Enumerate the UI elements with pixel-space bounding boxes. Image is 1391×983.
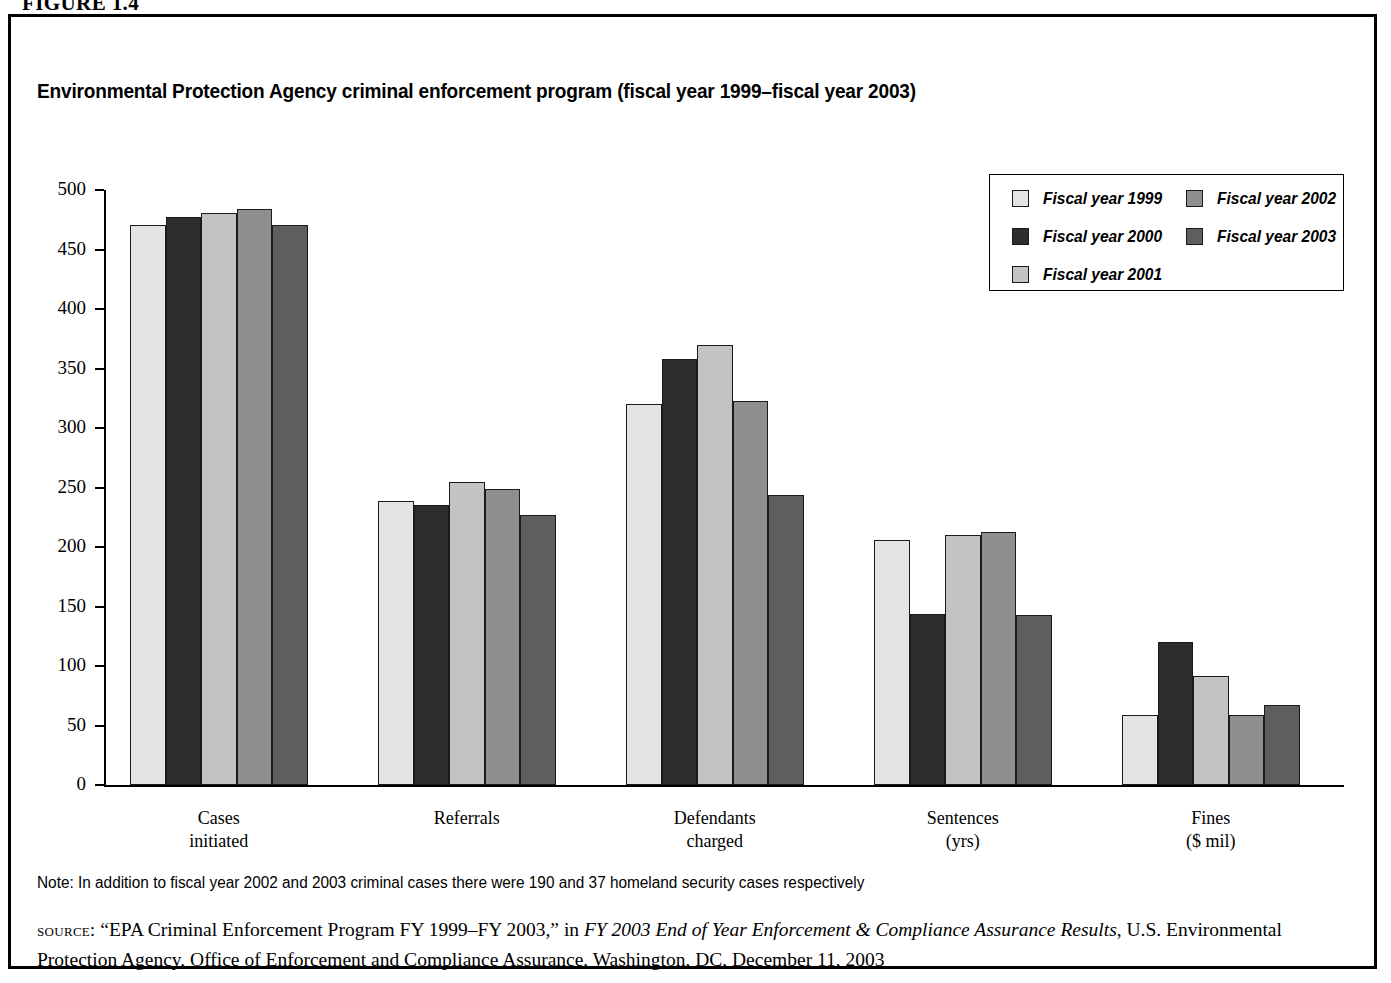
legend-item: Fiscal year 2003 [1186,227,1344,246]
y-axis-line [104,190,106,786]
y-axis-tick [95,189,104,191]
legend-item: Fiscal year 2002 [1186,189,1344,208]
y-axis-tick-label: 450 [58,238,87,260]
bar [697,345,733,785]
bar [768,495,804,785]
bar [166,217,202,785]
bar [626,404,662,785]
bar [520,515,556,785]
bar [1122,715,1158,785]
y-axis-tick-label: 150 [58,595,87,617]
bar [201,213,237,785]
source-label: source: [37,920,95,940]
y-axis-tick [95,546,104,548]
bar [1229,715,1265,785]
y-axis-tick [95,784,104,786]
bar [130,225,166,785]
bar [733,401,769,785]
y-axis-tick-label: 350 [58,357,87,379]
legend-swatch-fy2001 [1012,266,1029,283]
y-axis-tick [95,249,104,251]
y-axis-tick-label: 50 [67,714,86,736]
bar [1016,615,1052,785]
bar [485,489,521,785]
chart-source: source: “EPA Criminal Enforcement Progra… [37,915,1337,974]
bar [874,540,910,785]
y-axis-tick [95,308,104,310]
y-axis-tick [95,665,104,667]
y-axis-tick-label: 100 [58,654,87,676]
y-axis-tick-label: 250 [58,476,87,498]
chart-note: Note: In addition to fiscal year 2002 an… [37,874,864,892]
bar [662,359,698,785]
y-axis-tick [95,427,104,429]
bar [378,501,414,785]
bar [414,505,450,785]
source-text-part1: “EPA Criminal Enforcement Program FY 199… [95,919,584,940]
y-axis-tick [95,368,104,370]
bar [449,482,485,785]
x-axis-category-label: Defendants charged [625,807,805,853]
bar [945,535,981,785]
legend-item-label: Fiscal year 2000 [1043,227,1162,246]
y-axis-tick-label: 200 [58,535,87,557]
y-axis-tick [95,487,104,489]
bar [1193,676,1229,785]
legend-swatch-fy2003 [1186,228,1203,245]
x-axis-category-label: Sentences (yrs) [873,807,1053,853]
x-axis-category-label: Referrals [377,807,557,830]
legend-item: Fiscal year 2001 [1012,265,1170,284]
legend-item: Fiscal year 1999 [1012,189,1170,208]
x-axis-category-label: Cases initiated [129,807,309,853]
legend-swatch-fy2002 [1186,190,1203,207]
x-axis-category-label: Fines ($ mil) [1121,807,1301,853]
chart-title: Environmental Protection Agency criminal… [37,79,916,103]
legend-item: Fiscal year 2000 [1012,227,1170,246]
y-axis-tick [95,606,104,608]
bar [910,614,946,785]
x-axis-line [104,785,1344,787]
legend-item-label: Fiscal year 2003 [1217,227,1336,246]
bar [1158,642,1194,785]
legend-item-label: Fiscal year 1999 [1043,189,1162,208]
y-axis-tick-label: 400 [58,297,87,319]
legend-item-label: Fiscal year 2002 [1217,189,1336,208]
y-axis-tick-label: 0 [77,773,87,795]
figure-frame: Environmental Protection Agency criminal… [8,14,1377,969]
y-axis-tick-label: 500 [58,178,87,200]
bar [272,225,308,785]
legend-item-label: Fiscal year 2001 [1043,265,1162,284]
legend-swatch-fy1999 [1012,190,1029,207]
bar [981,532,1017,785]
y-axis-tick [95,725,104,727]
y-axis-labels: 050100150200250300350400450500 [16,190,86,785]
bar [1264,705,1300,785]
bar [237,209,273,785]
chart-legend: Fiscal year 1999Fiscal year 2000Fiscal y… [989,174,1344,291]
legend-swatch-fy2000 [1012,228,1029,245]
source-title-italic: FY 2003 End of Year Enforcement & Compli… [584,919,1117,940]
y-axis-tick-label: 300 [58,416,87,438]
